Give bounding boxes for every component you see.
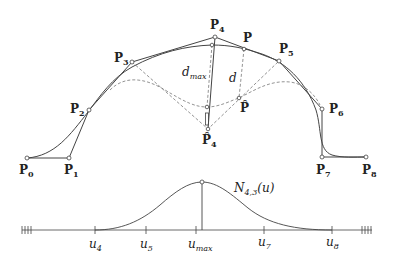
tick-label-u4: u4	[89, 237, 102, 253]
nurbs-diagram: P0 P1 P2 P3 P4 P P5 P6 P7 P8 P̂ P̂4 dmax…	[0, 0, 394, 264]
control-polygon	[27, 37, 366, 158]
modified-curve	[110, 80, 320, 107]
label-p4: P4	[210, 18, 225, 34]
label-p0: P0	[19, 163, 34, 179]
label-p4-hat: P̂4	[202, 132, 217, 149]
label-p6: P6	[329, 102, 344, 118]
label-p7: P7	[316, 163, 331, 179]
tick-label-u5: u5	[140, 237, 153, 253]
basis-peak-marker	[200, 180, 204, 184]
label-d: d	[229, 71, 237, 85]
d-line	[239, 49, 244, 98]
tick-label-u7: u7	[258, 235, 272, 251]
label-p8: P8	[362, 163, 377, 179]
tick-label-u8: u8	[326, 235, 339, 251]
label-p2: P2	[70, 102, 85, 118]
label-p-point: P	[243, 31, 252, 45]
basis-function-curve	[95, 182, 332, 230]
label-p5: P5	[279, 42, 294, 58]
label-basis: N4,3(u)	[233, 181, 275, 197]
tick-label-umax: umax	[188, 237, 213, 253]
label-dmax: dmax	[182, 65, 207, 81]
label-p-hat: P̂	[240, 100, 249, 115]
label-p1: P1	[64, 163, 79, 179]
dmax-line	[207, 45, 212, 107]
label-p3: P3	[114, 51, 129, 67]
